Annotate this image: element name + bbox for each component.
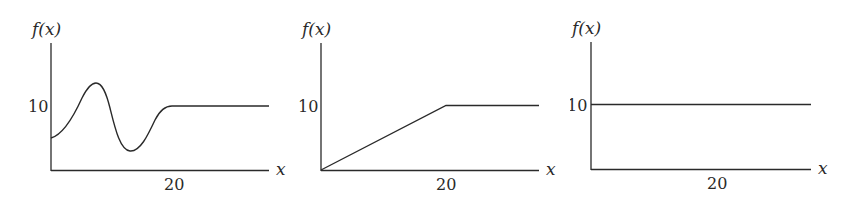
y-tick-10: 10 [298, 97, 318, 116]
x-tick-20: 20 [707, 174, 727, 193]
y-tick-10: 10 [570, 96, 587, 115]
x-axis-label: x [546, 159, 556, 179]
y-axis-label: f(x) [570, 18, 601, 38]
plot-constant-svg: f(x) x 10 20 [570, 0, 854, 205]
x-tick-20: 20 [436, 175, 456, 194]
function-curve [321, 106, 539, 171]
x-axis-label: x [276, 159, 286, 179]
function-curve [51, 83, 269, 151]
plot-oscillating: f(x) x 10 20 [0, 0, 290, 205]
y-tick-10: 10 [28, 97, 48, 116]
x-axis-label: x [818, 158, 828, 178]
plot-oscillating-svg: f(x) x 10 20 [0, 0, 290, 205]
plot-constant: f(x) x 10 20 [570, 0, 854, 205]
plot-ramp-svg: f(x) x 10 20 [290, 0, 570, 205]
plot-ramp: f(x) x 10 20 [290, 0, 570, 205]
x-tick-20: 20 [164, 175, 184, 194]
y-axis-label: f(x) [300, 19, 331, 39]
y-axis-label: f(x) [30, 19, 61, 39]
